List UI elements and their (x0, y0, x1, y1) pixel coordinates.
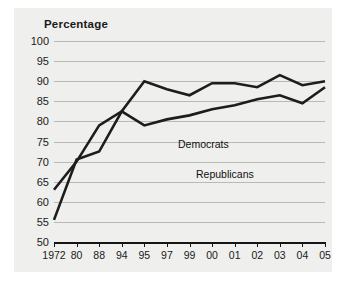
x-tick-label-04: 04 (297, 249, 309, 261)
x-tick-03 (280, 242, 281, 247)
x-tick-00 (212, 242, 213, 247)
x-tick-1972 (54, 242, 55, 247)
x-tick-label-99: 99 (184, 249, 196, 261)
x-tick-label-03: 03 (274, 249, 286, 261)
series-line-democrats (54, 75, 325, 190)
series-label-republicans: Republicans (196, 168, 254, 180)
x-tick-label-02: 02 (251, 249, 263, 261)
y-tick-label-55: 55 (37, 216, 49, 228)
y-tick-label-50: 50 (37, 236, 49, 248)
x-tick-97 (167, 242, 168, 247)
x-tick-95 (144, 242, 145, 247)
y-tick-label-65: 65 (37, 176, 49, 188)
x-tick-label-00: 00 (206, 249, 218, 261)
y-tick-label-60: 60 (37, 196, 49, 208)
y-tick-label-70: 70 (37, 156, 49, 168)
series-label-democrats: Democrats (178, 138, 229, 150)
chart-figure: Percentage 10095908580757065605550 Democ… (0, 0, 343, 287)
y-tick-label-90: 90 (37, 75, 49, 87)
x-tick-88 (99, 242, 100, 247)
x-tick-label-97: 97 (161, 249, 173, 261)
chart-title: Percentage (44, 18, 108, 30)
x-tick-99 (190, 242, 191, 247)
x-tick-label-94: 94 (116, 249, 128, 261)
x-tick-label-80: 80 (71, 249, 83, 261)
y-tick-label-75: 75 (37, 136, 49, 148)
series-line-republicans (54, 87, 325, 220)
x-tick-05 (325, 242, 326, 247)
y-tick-label-85: 85 (37, 95, 49, 107)
x-tick-04 (302, 242, 303, 247)
plot-area: 10095908580757065605550 Democrats Republ… (54, 41, 325, 242)
y-tick-label-95: 95 (37, 55, 49, 67)
x-tick-01 (235, 242, 236, 247)
y-tick-label-100: 100 (31, 35, 49, 47)
x-tick-label-01: 01 (229, 249, 241, 261)
x-tick-02 (257, 242, 258, 247)
x-tick-label-88: 88 (93, 249, 105, 261)
x-tick-label-05: 05 (319, 249, 331, 261)
x-tick-label-95: 95 (138, 249, 150, 261)
x-tick-label-1972: 1972 (42, 249, 65, 261)
y-tick-label-80: 80 (37, 115, 49, 127)
x-tick-94 (122, 242, 123, 247)
x-tick-80 (77, 242, 78, 247)
